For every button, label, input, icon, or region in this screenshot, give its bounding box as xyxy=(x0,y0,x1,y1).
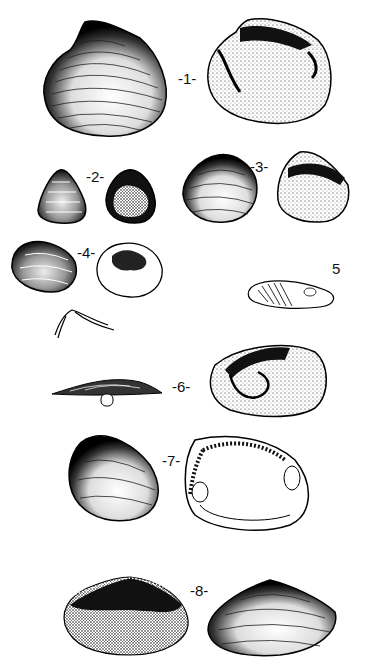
figure-label-4: -4- xyxy=(77,244,95,261)
fig4-exterior-shell xyxy=(12,242,76,292)
shell-illustrations xyxy=(0,0,366,668)
figure-label-1: -1- xyxy=(178,70,196,87)
fig5-interior-shell xyxy=(248,281,333,309)
fig1-exterior-shell xyxy=(44,21,166,136)
fig8-interior-shell xyxy=(64,577,188,655)
fig4-hinge-detail xyxy=(55,310,114,338)
fig2-exterior-shell xyxy=(38,170,86,223)
fig7-interior-shell xyxy=(185,437,308,531)
figure-label-5: 5 xyxy=(332,260,340,277)
shell-plate: -1- -2- -3- -4- 5 -6- -7- -8- xyxy=(0,0,366,668)
fig7-exterior-shell xyxy=(69,436,158,521)
fig3-exterior-shell xyxy=(183,155,257,223)
fig6-dorsal-view xyxy=(52,380,162,406)
figure-label-8: -8- xyxy=(190,582,208,599)
fig3-interior-shell xyxy=(278,152,349,222)
figure-label-2: -2- xyxy=(86,168,104,185)
fig2-interior-shell xyxy=(106,170,155,223)
fig1-interior-shell xyxy=(208,19,331,124)
figure-label-7: -7- xyxy=(162,452,180,469)
fig8-exterior-shell xyxy=(208,580,336,656)
fig6-interior-shell xyxy=(210,346,326,417)
figure-label-6: -6- xyxy=(172,378,190,395)
figure-label-3: -3- xyxy=(250,158,268,175)
fig4-interior-shell xyxy=(97,243,162,297)
